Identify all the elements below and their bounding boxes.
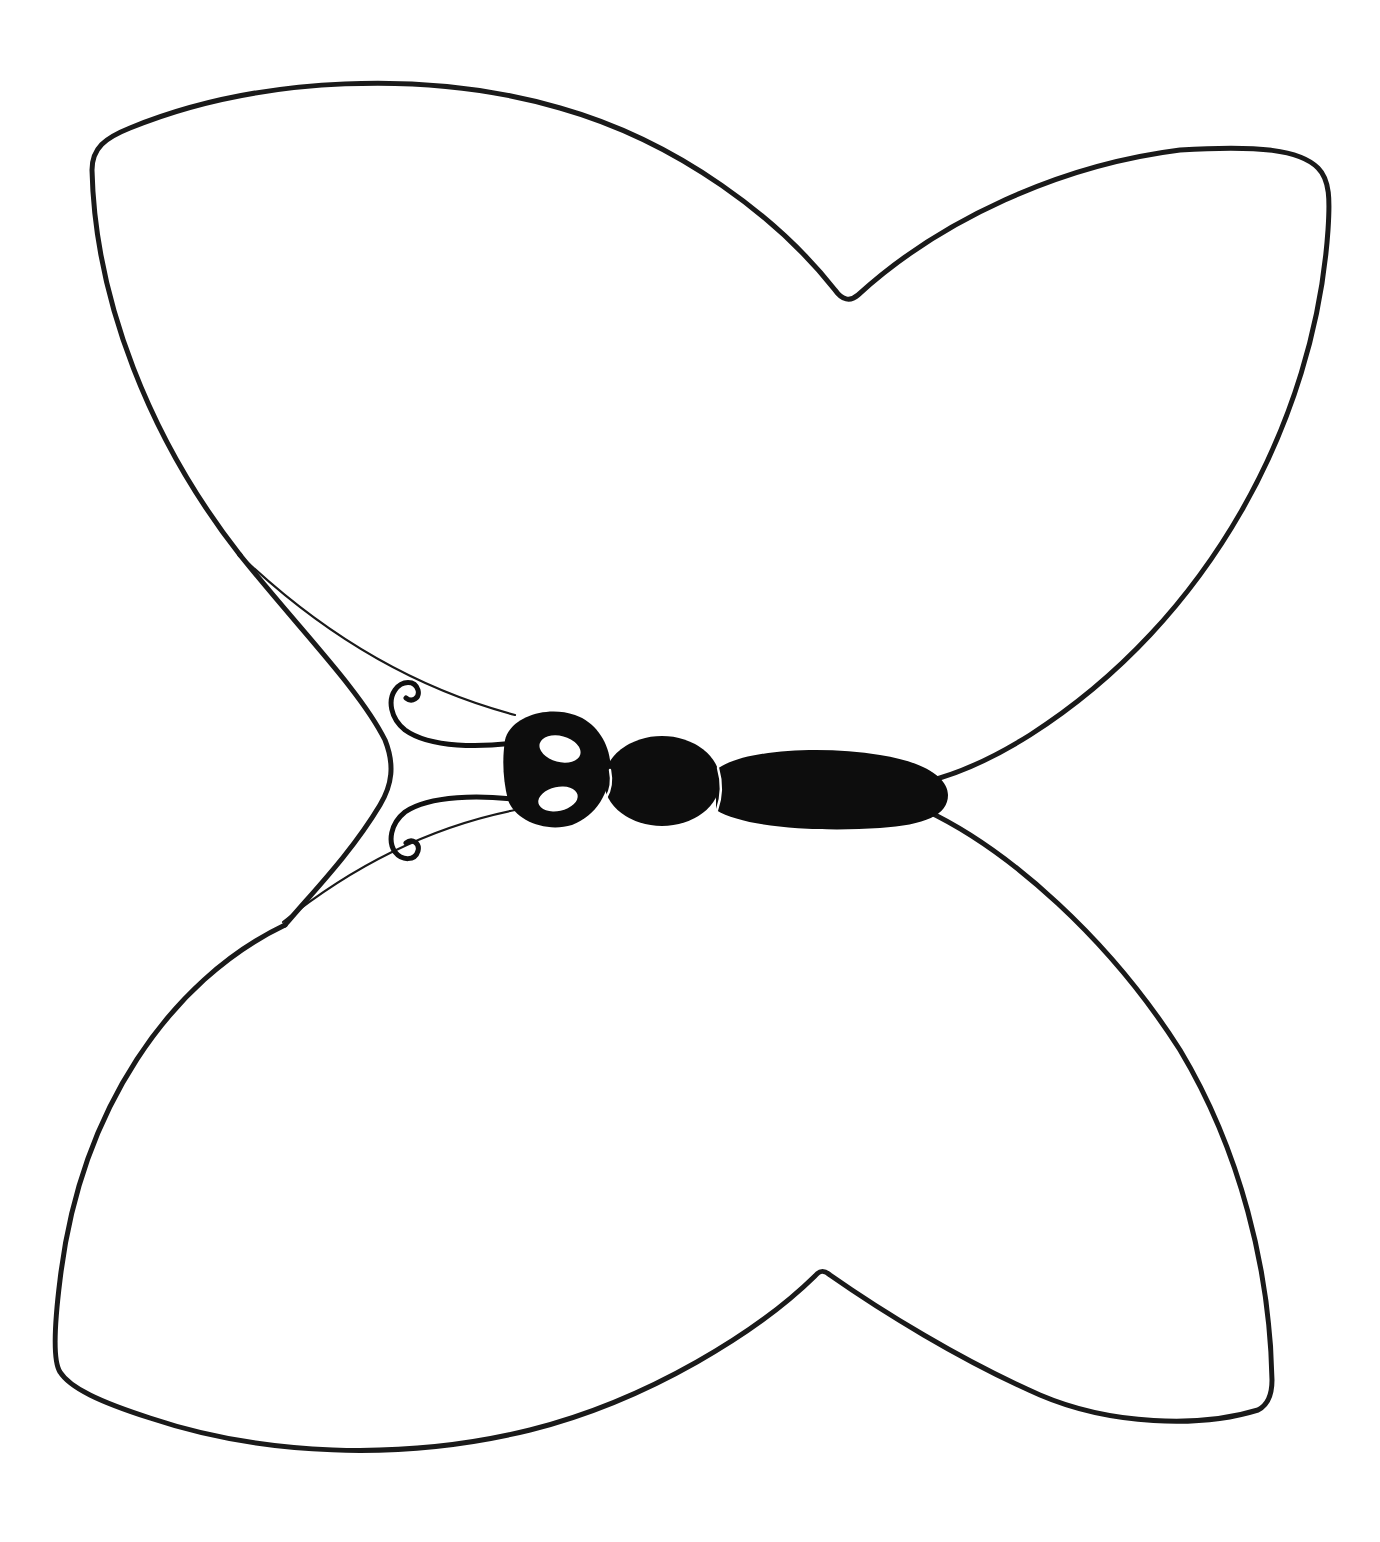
wing-pinch-outline <box>240 555 391 925</box>
upper-antenna <box>391 683 522 746</box>
thorax <box>604 736 720 826</box>
lower-antenna <box>391 797 522 859</box>
lower-wing-outline <box>55 810 1272 1450</box>
butterfly-drawing <box>0 0 1380 1542</box>
